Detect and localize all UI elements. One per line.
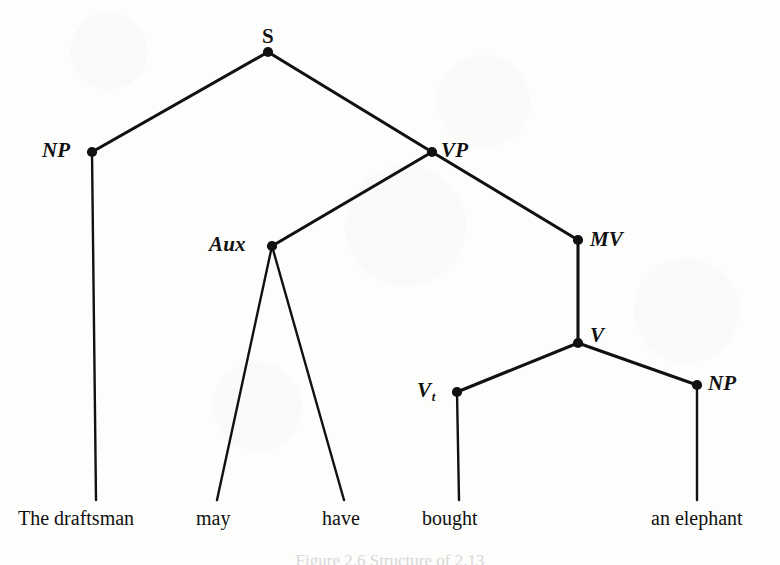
tree-node-dot-Aux xyxy=(267,241,277,251)
syntax-tree-figure: SNPVPAuxMVVVtNP The draftsmanmayhaveboug… xyxy=(0,0,780,565)
node-label-Vt: Vt xyxy=(417,380,435,403)
node-label-Aux: Aux xyxy=(209,234,246,255)
tree-node-dot-VP xyxy=(427,147,437,157)
tree-graph xyxy=(0,0,780,565)
tree-node-dot-MV xyxy=(573,235,583,245)
tree-node-dot-S xyxy=(263,47,273,57)
terminal-word-w4: bought xyxy=(422,508,478,528)
tree-edge-Aux-to-w2 xyxy=(217,246,272,500)
tree-edge-Aux-to-w3 xyxy=(272,246,344,500)
terminal-word-w3: have xyxy=(322,508,360,528)
terminal-word-w2: may xyxy=(196,508,230,528)
tree-edge-S-to-VP xyxy=(268,52,432,152)
node-label-VP: VP xyxy=(441,140,468,161)
tree-edge-Vt-to-w4 xyxy=(457,392,459,500)
terminal-word-w1: The draftsman xyxy=(18,508,134,528)
tree-node-dot-NP1 xyxy=(87,147,97,157)
tree-node-dot-Vt xyxy=(452,387,462,397)
node-label-subscript-Vt: t xyxy=(432,389,436,404)
terminal-word-w5: an elephant xyxy=(651,508,743,528)
tree-edge-V-to-Vt xyxy=(457,343,578,392)
node-label-NP2: NP xyxy=(708,373,736,394)
node-dot-layer xyxy=(87,47,702,397)
tree-node-dot-V xyxy=(573,338,583,348)
node-label-NP1: NP xyxy=(42,140,70,161)
node-label-V: V xyxy=(590,325,604,346)
tree-edge-V-to-NP2 xyxy=(578,343,697,385)
edge-layer xyxy=(92,52,697,500)
tree-edge-VP-to-Aux xyxy=(272,152,432,246)
tree-node-dot-NP2 xyxy=(692,380,702,390)
figure-caption: Figure 2.6 Structure of 2.13 xyxy=(0,552,780,565)
node-label-MV: MV xyxy=(590,229,623,250)
tree-edge-S-to-NP1 xyxy=(92,52,268,152)
node-label-S: S xyxy=(262,26,274,47)
tree-edge-VP-to-MV xyxy=(432,152,578,240)
tree-edge-NP1-to-w1 xyxy=(92,152,96,500)
